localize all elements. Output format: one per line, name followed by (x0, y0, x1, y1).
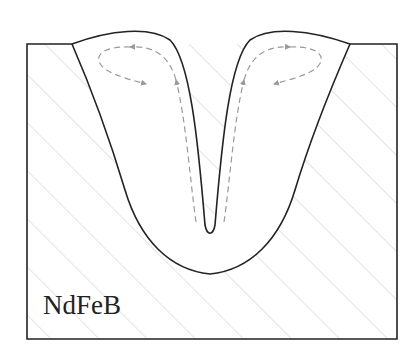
material-label: NdFeB (43, 290, 121, 321)
